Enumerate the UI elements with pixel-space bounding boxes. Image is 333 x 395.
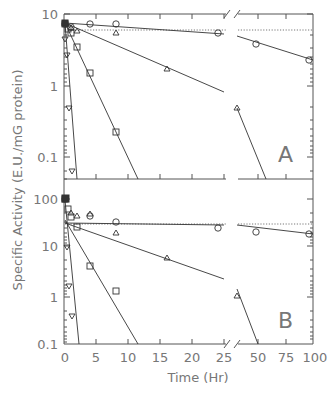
a-fit-circle	[65, 23, 224, 34]
svg-text:100: 100	[303, 350, 328, 365]
b-fit-triangle-down	[65, 200, 79, 344]
b-ytick-100: 100	[33, 192, 58, 207]
panel-label-a: A	[278, 142, 293, 167]
a-ytick-1: 1	[50, 79, 58, 94]
svg-text:10: 10	[120, 350, 137, 365]
a-fit-triangle-up	[65, 23, 224, 92]
b-series-square	[62, 196, 119, 294]
panel-a: 10 1 0.1 A	[37, 7, 313, 179]
x-axis-label: Time (Hr)	[166, 370, 228, 385]
a-fit-circle-right	[237, 36, 313, 60]
b-fit-triangle-up-right	[237, 289, 258, 344]
a-fit-triangle-down	[65, 23, 77, 179]
svg-text:20: 20	[184, 350, 201, 365]
svg-text:50: 50	[250, 350, 267, 365]
b-series-triangle-up	[62, 196, 240, 298]
b-ytick-1: 1	[50, 290, 58, 305]
svg-text:75: 75	[278, 350, 295, 365]
svg-text:0: 0	[61, 350, 69, 365]
a-ytick-0.1: 0.1	[37, 150, 58, 165]
svg-text:25: 25	[216, 350, 233, 365]
a-fit-square	[65, 23, 138, 179]
svg-text:5: 5	[92, 350, 100, 365]
b-ytick-0.1: 0.1	[37, 337, 58, 352]
b-series-circle	[62, 196, 312, 237]
svg-text:15: 15	[152, 350, 169, 365]
a-series-circle	[62, 21, 312, 63]
a-fit-triangle-up-right	[237, 108, 266, 179]
x-tick-labels: 0 5 10 15 20 25 50 75 100	[61, 350, 328, 365]
y-axis-label: Specific Activity (E.U./mG protein)	[10, 69, 25, 290]
b-ytick-10: 10	[41, 239, 58, 254]
a-series-triangle-up	[62, 21, 240, 110]
panel-b: 100 10 1 0.1 B	[33, 179, 313, 352]
b-fit-triangle-up	[65, 223, 224, 279]
a-ytick-10: 10	[41, 7, 58, 22]
chart-figure: 10 1 0.1 A	[0, 0, 333, 395]
b-fit-square	[65, 220, 138, 344]
panel-label-b: B	[278, 308, 293, 333]
b-fit-circle-right	[237, 225, 313, 234]
